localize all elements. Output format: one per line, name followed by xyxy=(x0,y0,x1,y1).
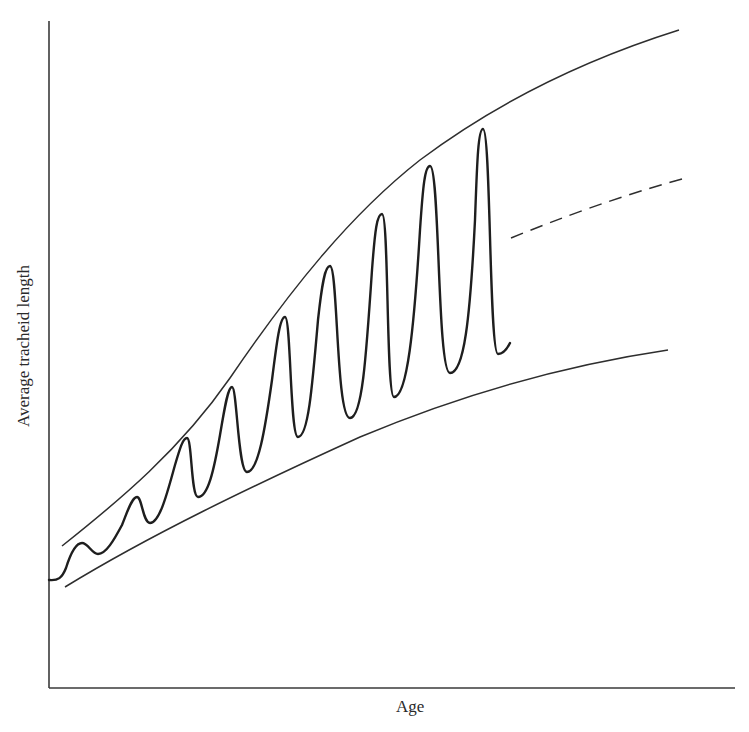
annual-ring-fluctuation-curve xyxy=(49,129,510,580)
tracheid-length-figure: Average tracheid length Age xyxy=(0,0,749,732)
dashed-extrapolation-line xyxy=(511,179,682,238)
y-axis-label: Average tracheid length xyxy=(14,265,34,427)
plot-area xyxy=(0,0,749,732)
x-axis-label: Age xyxy=(396,697,424,717)
lower-envelope-curve xyxy=(65,350,668,587)
